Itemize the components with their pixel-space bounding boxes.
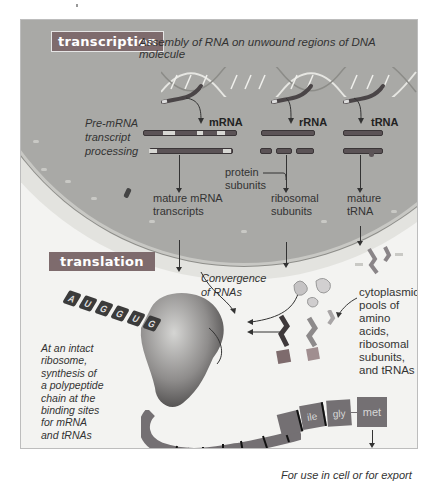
intron-segment — [217, 131, 225, 135]
cytoplasm-dot — [321, 220, 327, 223]
cytoplasm-dot — [91, 197, 97, 200]
trna-pool-icon — [351, 245, 411, 285]
trna-loop — [369, 152, 374, 157]
tail-segment — [223, 149, 231, 153]
arrow-down — [360, 155, 361, 189]
cytoplasm-dot — [391, 210, 397, 213]
ribosomal-subunits-label: ribosomal subunits — [271, 192, 319, 218]
pre-rrna-bar — [261, 130, 315, 136]
protein-synthesis-diagram: transcription Assembly of RNA on unwound… — [20, 19, 418, 449]
scan-speck — [76, 4, 78, 7]
cytoplasm-dot — [149, 220, 155, 223]
arrow-down — [179, 240, 180, 268]
intron-segment — [163, 131, 175, 135]
arrow-down — [360, 226, 361, 242]
arrow-down — [372, 430, 373, 444]
ribosome-icon — [121, 288, 241, 418]
intron-segment — [197, 131, 203, 135]
transcription-caption: Assembly of RNA on unwound regions of DN… — [139, 36, 417, 60]
mature-trna-bar — [343, 148, 383, 154]
rrna-fragment — [260, 148, 272, 154]
cap-segment — [149, 149, 157, 153]
rrna-fragment — [296, 148, 314, 154]
mature-trna-label: mature tRNA — [347, 192, 381, 218]
mature-mrna-label: mature mRNA transcripts — [153, 192, 223, 218]
cytoplasm-dot — [33, 140, 39, 143]
ribosome-caption: At an intact ribosome, synthesis of a po… — [41, 342, 103, 441]
amino-acid-gly: gly — [326, 399, 352, 427]
mrna-label: mRNA — [209, 116, 243, 128]
cytoplasm-dot — [65, 180, 71, 183]
trna-label: tRNA — [371, 116, 399, 128]
protein-subunits-connector — [261, 170, 291, 190]
arrow-down — [286, 242, 287, 264]
cytoplasm-dot — [41, 168, 47, 171]
pre-trna-bar — [343, 130, 383, 136]
ribosomal-subunits-pool-icon — [286, 275, 356, 315]
amino-acid-met: met — [357, 397, 387, 427]
transcription-arrows — [171, 96, 371, 126]
final-protein-caption: For use in cell or for export — [281, 469, 412, 481]
amino-acid-ile: ile — [299, 402, 327, 430]
pre-mrna-processing-label: Pre-mRNA transcript processing — [85, 116, 138, 158]
charged-trna-icon — [269, 310, 349, 382]
translation-badge: translation — [49, 252, 155, 271]
rrna-fragment — [276, 148, 292, 154]
cytoplasm-dot — [241, 230, 247, 233]
protein-subunits-label: protein subunits — [225, 166, 266, 192]
mature-mrna-bar — [149, 148, 233, 154]
arrow-down — [179, 155, 180, 189]
cytoplasmic-pools-label: cytoplasmic pools of amino acids, riboso… — [359, 286, 418, 377]
rrna-label: rRNA — [299, 116, 327, 128]
